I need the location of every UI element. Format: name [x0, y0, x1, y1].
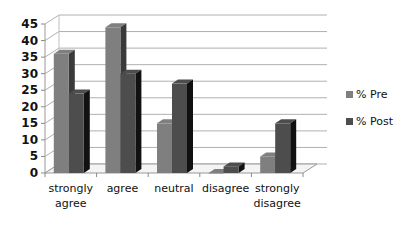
y-tick-label: 5 — [30, 149, 38, 163]
chart-legend: % Pre % Post — [346, 87, 393, 141]
bar — [54, 54, 69, 173]
legend-item-post: % Post — [346, 114, 393, 129]
y-tick-label: 25 — [21, 83, 38, 97]
x-category-label: disagree — [202, 182, 250, 195]
bar — [120, 74, 135, 173]
bar-chart: 051015202530354045stronglyagreeagreeneut… — [0, 0, 401, 225]
y-tick-label: 40 — [21, 34, 38, 48]
y-tick-label: 15 — [21, 116, 38, 130]
x-category-label: agree — [107, 182, 139, 195]
y-tick-label: 10 — [21, 133, 38, 147]
bar — [69, 94, 84, 173]
x-category-label: strongly — [49, 182, 94, 195]
bar — [260, 156, 275, 173]
y-tick-label: 0 — [30, 166, 38, 180]
x-category-label: strongly — [255, 182, 300, 195]
bar — [209, 173, 224, 174]
legend-label-post: % Post — [356, 115, 393, 128]
legend-swatch-post — [346, 118, 353, 125]
bar — [224, 166, 239, 173]
y-tick-label: 20 — [21, 100, 38, 114]
y-tick-label: 45 — [21, 17, 38, 31]
bar — [105, 27, 120, 173]
bar — [157, 123, 172, 173]
bar — [172, 84, 187, 173]
x-category-label: agree — [55, 197, 87, 210]
legend-item-pre: % Pre — [346, 87, 393, 102]
x-category-label: disagree — [254, 197, 302, 210]
bar — [275, 123, 290, 173]
x-category-label: neutral — [154, 182, 193, 195]
y-tick-label: 35 — [21, 50, 38, 64]
legend-label-pre: % Pre — [356, 88, 387, 101]
y-tick-label: 30 — [21, 67, 38, 81]
legend-swatch-pre — [346, 91, 353, 98]
